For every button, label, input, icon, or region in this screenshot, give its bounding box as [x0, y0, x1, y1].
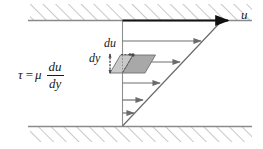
dy-label: dy	[89, 52, 100, 64]
top-wall-hatching	[30, 4, 252, 20]
du-dy-fraction: du dy	[47, 60, 64, 90]
fluid-shear-diagram: u du dy τ = μ du dy	[0, 0, 263, 149]
bottom-wall	[28, 127, 252, 143]
velocity-arrows	[123, 41, 202, 113]
top-wall	[28, 4, 252, 21]
mu-symbol: μ	[35, 67, 42, 83]
equals-symbol: =	[26, 67, 33, 83]
fraction-denominator: dy	[47, 76, 63, 91]
velocity-label-u: u	[241, 8, 248, 21]
du-label: du	[104, 37, 116, 49]
fraction-numerator: du	[47, 60, 64, 75]
tau-symbol: τ	[18, 67, 23, 83]
bottom-wall-hatching	[30, 127, 252, 142]
shear-stress-equation: τ = μ du dy	[18, 60, 64, 90]
fluid-element	[110, 55, 156, 73]
du-endpoint-dot	[131, 53, 134, 56]
